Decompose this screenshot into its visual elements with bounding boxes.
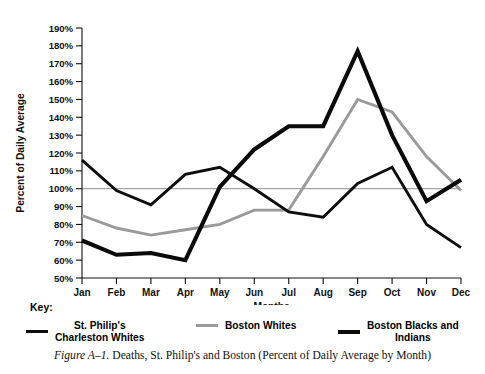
legend-label-st-philips: St. Philip's Charleston Whites — [55, 320, 144, 343]
x-tick-label: Jan — [73, 287, 90, 298]
figure-number: Figure A–1. — [54, 349, 109, 362]
y-tick-label: 90% — [54, 201, 73, 212]
chart-key: Key: St. Philip's Charleston Whites Bost… — [0, 302, 485, 348]
x-tick-label: Aug — [313, 287, 332, 298]
x-tick-label: May — [210, 287, 230, 298]
x-tick-label: Oct — [384, 287, 401, 298]
y-tick-label: 140% — [49, 112, 74, 123]
figure-caption-text: Deaths, St. Philip's and Boston (Percent… — [109, 349, 431, 362]
legend-line-boston-blacks-icon — [338, 330, 360, 334]
y-axis-tick-labels: 190%180%170%160%150%140%130%120%110%100%… — [49, 23, 74, 284]
x-tick-label: Apr — [177, 287, 194, 298]
y-tick-label: 180% — [49, 40, 74, 51]
legend-label-boston-blacks: Boston Blacks and Indians — [367, 320, 459, 343]
y-tick-label: 150% — [49, 94, 74, 105]
y-tick-label: 50% — [54, 273, 73, 284]
legend-line-st-philips-icon — [26, 330, 48, 333]
x-tick-label: Nov — [417, 287, 436, 298]
legend-line-boston-whites-icon — [196, 324, 218, 327]
legend-label-boston-whites: Boston Whites — [225, 320, 296, 332]
y-tick-label: 170% — [49, 58, 74, 69]
y-tick-label: 80% — [54, 219, 73, 230]
x-axis-tick-labels: JanFebMarAprMayJunJulAugSepOctNovDec — [73, 287, 470, 298]
series-line-boston-whites — [82, 99, 461, 235]
legend-item-boston-blacks[interactable]: Boston Blacks and Indians — [338, 320, 459, 343]
y-tick-label: 120% — [49, 148, 74, 159]
series-line-st-philips-charleston-whites — [82, 160, 461, 248]
legend-item-st-philips[interactable]: St. Philip's Charleston Whites — [26, 320, 144, 343]
series-line-boston-blacks-and-indians — [82, 51, 461, 260]
x-tick-label: Feb — [108, 287, 126, 298]
y-tick-label: 190% — [49, 23, 74, 34]
y-axis-title: Percent of Daily Average — [15, 93, 26, 213]
line-chart: 190%180%170%160%150%140%130%120%110%100%… — [0, 0, 485, 305]
x-tick-label: Jul — [282, 287, 297, 298]
y-tick-label: 60% — [54, 255, 73, 266]
x-axis-tick-marks — [82, 278, 461, 284]
x-tick-label: Jun — [245, 287, 263, 298]
figure-caption: Figure A–1. Deaths, St. Philip's and Bos… — [0, 349, 485, 362]
legend-item-boston-whites[interactable]: Boston Whites — [196, 320, 296, 332]
figure-container: 190%180%170%160%150%140%130%120%110%100%… — [0, 0, 485, 374]
x-tick-label: Mar — [142, 287, 160, 298]
y-tick-label: 70% — [54, 237, 73, 248]
y-axis-tick-marks — [76, 28, 82, 278]
y-tick-label: 110% — [49, 165, 73, 176]
x-tick-label: Dec — [452, 287, 471, 298]
key-label: Key: — [30, 302, 53, 313]
x-tick-label: Sep — [348, 287, 366, 298]
y-tick-label: 100% — [49, 183, 74, 194]
y-tick-label: 160% — [49, 76, 74, 87]
y-tick-label: 130% — [49, 130, 74, 141]
